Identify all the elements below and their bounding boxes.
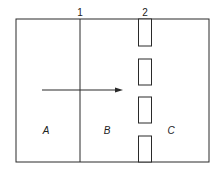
label-region-c: C (167, 125, 175, 136)
label-region-a: A (42, 125, 50, 136)
diagram: 1 2 A B C (0, 0, 221, 172)
label-region-b: B (104, 125, 111, 136)
slot (139, 19, 152, 46)
arrowhead-icon (115, 88, 123, 93)
flow-arrow (42, 88, 123, 93)
slot (139, 97, 152, 123)
boundary-2-slots (139, 19, 152, 162)
slot (139, 136, 152, 162)
label-boundary-1: 1 (77, 7, 83, 18)
label-boundary-2: 2 (142, 7, 148, 18)
slot (139, 59, 152, 85)
